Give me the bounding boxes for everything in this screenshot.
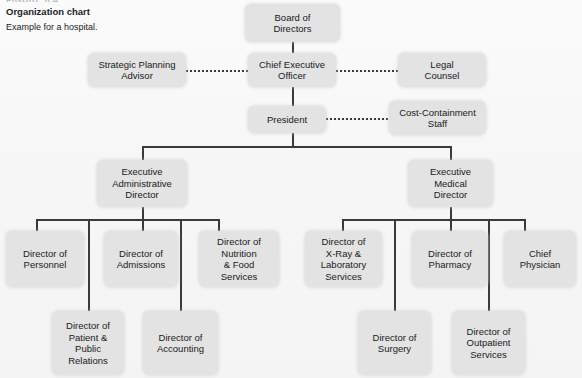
node-patient-line3: Public bbox=[66, 343, 110, 355]
node-cost-line1: Cost-Containment bbox=[399, 107, 476, 119]
connector-ceo-president bbox=[292, 87, 294, 106]
connector-executive-bus bbox=[142, 146, 452, 148]
node-accounting-line2: Accounting bbox=[157, 343, 204, 355]
node-admissions-line1: Director of bbox=[117, 248, 166, 260]
node-ceo-line1: Chief Executive bbox=[259, 59, 325, 71]
connector-admin-bus-accounting bbox=[180, 219, 182, 311]
node-patient-line2: Patient & bbox=[66, 332, 110, 344]
node-nutrition-line1: Director of bbox=[217, 236, 261, 248]
node-director-of-admissions[interactable]: Director of Admissions bbox=[104, 231, 178, 287]
node-director-of-accounting[interactable]: Director of Accounting bbox=[143, 311, 218, 375]
node-cost-containment-staff[interactable]: Cost-Containment Staff bbox=[389, 101, 486, 135]
connector-medical-bus-xray bbox=[342, 219, 344, 231]
connector-bus-exec-admin bbox=[142, 146, 144, 160]
node-exec-med-line3: Director bbox=[430, 189, 471, 201]
node-executive-medical-director[interactable]: Executive Medical Director bbox=[408, 160, 493, 207]
node-legal-line1: Legal bbox=[425, 59, 460, 71]
node-xray-line3: Laboratory bbox=[321, 259, 366, 271]
node-chief-executive-officer[interactable]: Chief Executive Officer bbox=[248, 53, 336, 87]
node-personnel-line2: Personnel bbox=[23, 259, 67, 271]
node-xray-line2: X-Ray & bbox=[321, 248, 366, 260]
node-surgery-line1: Director of bbox=[373, 332, 417, 344]
connector-medical-bus-pharmacy bbox=[450, 219, 452, 231]
node-exec-admin-line1: Executive bbox=[112, 166, 172, 178]
connector-medical-bus-outpatient bbox=[488, 219, 490, 311]
node-physician-line2: Physician bbox=[520, 259, 561, 271]
connector-medical-bus bbox=[342, 219, 525, 221]
connector-admin-bus-patient-relations bbox=[88, 219, 90, 311]
node-cost-line2: Staff bbox=[399, 118, 476, 130]
node-director-of-xray-laboratory-services[interactable]: Director of X-Ray & Laboratory Services bbox=[305, 231, 382, 287]
node-spa-line1: Strategic Planning bbox=[98, 59, 175, 71]
figure-number: FIGURE 8.4 bbox=[6, 0, 236, 2]
node-president[interactable]: President bbox=[248, 106, 326, 133]
node-board-of-directors[interactable]: Board of Directors bbox=[245, 4, 340, 42]
node-xray-line4: Services bbox=[321, 271, 366, 283]
node-exec-admin-line2: Administrative bbox=[112, 178, 172, 190]
node-physician-line1: Chief bbox=[520, 248, 561, 260]
node-outpatient-line1: Director of bbox=[467, 326, 511, 338]
node-director-of-outpatient-services[interactable]: Director of Outpatient Services bbox=[452, 311, 525, 375]
node-director-of-surgery[interactable]: Director of Surgery bbox=[358, 311, 431, 375]
node-pharmacy-line2: Pharmacy bbox=[428, 259, 472, 271]
connector-medical-bus-chief-physician bbox=[524, 219, 526, 231]
node-exec-med-line1: Executive bbox=[430, 166, 471, 178]
node-admissions-line2: Admissions bbox=[117, 259, 166, 271]
connector-bus-exec-medical bbox=[450, 146, 452, 160]
node-exec-med-line2: Medical bbox=[430, 178, 471, 190]
node-legal-line2: Counsel bbox=[425, 70, 460, 82]
node-accounting-line1: Director of bbox=[157, 332, 204, 344]
node-director-of-pharmacy[interactable]: Director of Pharmacy bbox=[412, 231, 488, 287]
node-spa-line2: Advisor bbox=[98, 70, 175, 82]
node-patient-line4: Relations bbox=[66, 355, 110, 367]
connector-admin-bus-admissions bbox=[142, 219, 144, 231]
node-exec-admin-line3: Director bbox=[112, 189, 172, 201]
connector-president-cost-containment bbox=[326, 118, 389, 120]
organization-chart: FIGURE 8.4 Organization chart Example fo… bbox=[0, 0, 582, 378]
node-director-of-nutrition-food-services[interactable]: Director of Nutrition & Food Services bbox=[199, 231, 279, 287]
caption-subtitle: Example for a hospital. bbox=[6, 21, 236, 33]
node-director-of-personnel[interactable]: Director of Personnel bbox=[6, 231, 84, 287]
node-xray-line1: Director of bbox=[321, 236, 366, 248]
connector-president-bus-drop bbox=[292, 133, 294, 147]
node-legal-counsel[interactable]: Legal Counsel bbox=[398, 53, 486, 87]
node-outpatient-line3: Services bbox=[467, 349, 511, 361]
node-strategic-planning-advisor[interactable]: Strategic Planning Advisor bbox=[88, 53, 186, 87]
node-nutrition-line4: Services bbox=[217, 271, 261, 283]
node-nutrition-line2: Nutrition bbox=[217, 248, 261, 260]
node-personnel-line1: Director of bbox=[23, 248, 67, 260]
connector-admin-bus-nutrition bbox=[218, 219, 220, 231]
node-pharmacy-line1: Director of bbox=[428, 248, 472, 260]
node-nutrition-line3: & Food bbox=[217, 259, 261, 271]
node-board-line1: Board of bbox=[273, 12, 311, 24]
node-executive-administrative-director[interactable]: Executive Administrative Director bbox=[97, 160, 187, 207]
connector-medical-bus-surgery bbox=[394, 219, 396, 311]
node-board-line2: Directors bbox=[273, 23, 311, 35]
figure-caption: FIGURE 8.4 Organization chart Example fo… bbox=[6, 0, 236, 33]
node-director-of-patient-public-relations[interactable]: Director of Patient & Public Relations bbox=[52, 311, 124, 375]
connector-admin-bus-personnel bbox=[36, 219, 38, 231]
connector-ceo-strategic-planning-advisor bbox=[186, 70, 249, 72]
node-outpatient-line2: Outpatient bbox=[467, 337, 511, 349]
node-president-line1: President bbox=[267, 114, 307, 126]
node-chief-physician[interactable]: Chief Physician bbox=[504, 231, 576, 287]
connector-admin-bus bbox=[36, 219, 219, 221]
connector-ceo-legal-counsel bbox=[336, 70, 398, 72]
node-surgery-line2: Surgery bbox=[373, 343, 417, 355]
node-ceo-line2: Officer bbox=[259, 70, 325, 82]
node-patient-line1: Director of bbox=[66, 320, 110, 332]
page-title: Organization chart bbox=[6, 6, 236, 18]
